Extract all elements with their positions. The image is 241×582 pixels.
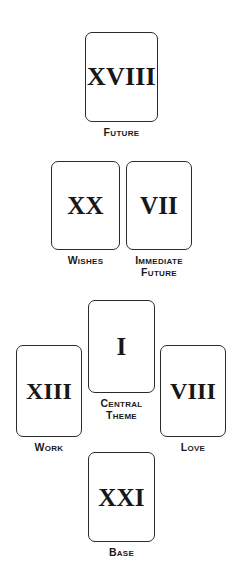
card-slot-base: XXI Base [88, 452, 155, 558]
card-caption-love: Love [160, 441, 226, 453]
card-slot-work: XIII Work [16, 345, 82, 453]
tarot-card-base[interactable]: XXI [88, 452, 155, 542]
card-slot-central-theme: I Central Theme [88, 300, 155, 422]
tarot-card-work[interactable]: XIII [16, 345, 82, 437]
caption-line: Immediate [126, 254, 192, 266]
caption-line: Theme [88, 409, 155, 421]
tarot-card-love[interactable]: VIII [160, 345, 226, 437]
card-numeral: XVIII [87, 64, 156, 90]
tarot-spread-diagram: XVIII Future XX Wishes VII Immediate Fut… [0, 0, 241, 582]
caption-line: Work [16, 441, 82, 453]
tarot-card-wishes[interactable]: XX [51, 161, 120, 250]
card-numeral: XXI [98, 485, 144, 510]
card-numeral: XX [67, 193, 104, 218]
caption-line: Future [85, 126, 158, 138]
card-slot-wishes: XX Wishes [51, 161, 120, 266]
caption-line: Love [160, 441, 226, 453]
card-caption-work: Work [16, 441, 82, 453]
tarot-card-future[interactable]: XVIII [85, 32, 158, 122]
caption-line: Central [88, 397, 155, 409]
card-numeral: VII [140, 193, 178, 218]
card-caption-future: Future [85, 126, 158, 138]
card-numeral: I [117, 334, 127, 359]
card-numeral: XIII [26, 379, 72, 403]
caption-line: Wishes [51, 254, 120, 266]
card-caption-immediate-future: Immediate Future [126, 254, 192, 279]
card-caption-base: Base [88, 546, 155, 558]
card-numeral: VIII [170, 379, 216, 403]
card-slot-future: XVIII Future [85, 32, 158, 138]
card-caption-central-theme: Central Theme [88, 397, 155, 422]
caption-line: Base [88, 546, 155, 558]
card-slot-love: VIII Love [160, 345, 226, 453]
tarot-card-central-theme[interactable]: I [88, 300, 155, 393]
card-caption-wishes: Wishes [51, 254, 120, 266]
tarot-card-immediate-future[interactable]: VII [126, 161, 192, 250]
caption-line: Future [126, 266, 192, 278]
card-slot-immediate-future: VII Immediate Future [126, 161, 192, 279]
